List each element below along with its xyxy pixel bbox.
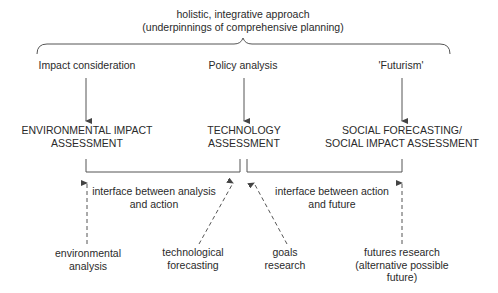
- input-environmental-analysis: environmental analysis: [55, 247, 121, 272]
- interface-af-line2: and future: [275, 198, 389, 211]
- input-fr-line2: (alternative possible: [355, 259, 448, 272]
- input-tf-line2: forecasting: [162, 259, 223, 272]
- assessment-eia-line1: ENVIRONMENTAL IMPACT: [21, 124, 152, 137]
- input-gr-line2: research: [265, 259, 306, 272]
- assessment-ta-line2: ASSESSMENT: [207, 137, 281, 150]
- input-technological-forecasting: technological forecasting: [162, 246, 223, 271]
- top-label-line1: holistic, integrative approach: [142, 8, 343, 21]
- top-label: holistic, integrative approach (underpin…: [142, 8, 343, 33]
- interface-af-line1: interface between action: [275, 185, 389, 198]
- approach-policy-analysis: Policy analysis: [209, 59, 278, 72]
- bracket-analysis-action: [86, 159, 240, 172]
- assessment-eia-line2: ASSESSMENT: [21, 137, 152, 150]
- input-fr-line1: futures research: [355, 246, 448, 259]
- assessment-ta-line1: TECHNOLOGY: [207, 124, 281, 137]
- approach-impact-consideration: Impact consideration: [39, 59, 136, 72]
- interface-aa-line1: interface between analysis: [92, 185, 216, 198]
- input-ea-line2: analysis: [55, 260, 121, 273]
- interface-aa-line2: and action: [92, 198, 216, 211]
- assessment-environmental-impact: ENVIRONMENTAL IMPACT ASSESSMENT: [21, 124, 152, 149]
- input-goals-research: goals research: [265, 246, 306, 271]
- interface-analysis-action: interface between analysis and action: [92, 185, 216, 210]
- assessment-sia-line1: SOCIAL FORECASTING/: [325, 124, 479, 137]
- input-futures-research: futures research (alternative possible f…: [355, 246, 448, 284]
- top-label-line2: (underpinnings of comprehensive planning…: [142, 21, 343, 34]
- input-gr-line1: goals: [265, 246, 306, 259]
- bracket-action-future: [247, 159, 402, 172]
- assessment-sia-line2: SOCIAL IMPACT ASSESSMENT: [325, 137, 479, 150]
- input-fr-line3: future): [355, 271, 448, 284]
- interface-action-future: interface between action and future: [275, 185, 389, 210]
- diagram: holistic, integrative approach (underpin…: [0, 0, 498, 293]
- approach-futurism: 'Futurism': [379, 59, 424, 72]
- input-ea-line1: environmental: [55, 247, 121, 260]
- input-tf-line1: technological: [162, 246, 223, 259]
- assessment-technology: TECHNOLOGY ASSESSMENT: [207, 124, 281, 149]
- brace: [37, 38, 450, 54]
- assessment-social: SOCIAL FORECASTING/ SOCIAL IMPACT ASSESS…: [325, 124, 479, 149]
